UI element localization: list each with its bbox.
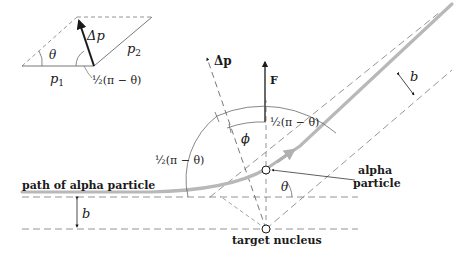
momentum-inset: Δp θ p1 p2 ½(π − θ) xyxy=(22,17,152,88)
path-direction-arrow xyxy=(277,152,291,162)
nucleus-label: target nucleus xyxy=(232,234,322,247)
phi-arc xyxy=(227,122,266,128)
theta-label: θ xyxy=(281,180,289,194)
phi-label: ϕ xyxy=(241,131,250,146)
delta-p-direction-dashed xyxy=(207,58,266,229)
arc-tick xyxy=(229,124,231,133)
inset-p2-label: p2 xyxy=(127,41,141,58)
inset-half-angle-leader xyxy=(84,66,92,78)
b-lower-label: b xyxy=(82,206,90,221)
path-label: path of alpha particle xyxy=(22,179,155,192)
alpha-label-line2: particle xyxy=(353,177,401,190)
b-upper-label: b xyxy=(410,69,418,84)
inset-delta-p-label: Δp xyxy=(86,28,105,43)
inset-half-angle-arc xyxy=(76,51,84,66)
outgoing-asymptote-dashed xyxy=(210,12,440,197)
inset-theta-label: θ xyxy=(49,48,57,62)
scattering-diagram: Δp θ p1 p2 ½(π − θ) xyxy=(0,0,465,258)
force-label: F xyxy=(270,74,278,87)
apex-dashed xyxy=(220,196,266,229)
alpha-particle-marker xyxy=(262,166,270,174)
half-angle-left-label: ½(π − θ) xyxy=(155,154,204,167)
inset-p1-label: p1 xyxy=(50,71,64,88)
inset-theta-arc xyxy=(39,51,42,66)
alpha-label-line1: alpha xyxy=(358,164,392,177)
target-nucleus-marker xyxy=(262,225,270,233)
delta-p-vector-label: Δp xyxy=(214,54,232,68)
alpha-leader-line xyxy=(272,170,355,180)
half-angle-top-label: ½(π − θ) xyxy=(270,116,319,129)
inset-half-angle-label: ½(π − θ) xyxy=(92,74,141,87)
